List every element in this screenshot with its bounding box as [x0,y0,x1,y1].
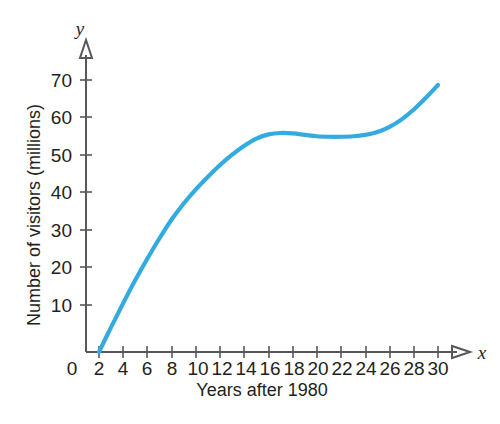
chart-figure: 70 60 50 40 30 20 10 [0,0,500,424]
x-tick-label-4: 4 [118,358,129,379]
y-tick-label-50: 50 [51,145,72,166]
data-curve-visitors [99,85,438,352]
x-tick-label-22: 22 [331,358,352,379]
y-axis-title: Number of visitors (millions) [24,104,44,326]
x-tick-label-6: 6 [142,358,153,379]
y-axis-tick-labels: 70 60 50 40 30 20 10 [51,70,72,316]
x-tick-label-10: 10 [187,358,208,379]
x-axis [86,346,470,358]
x-axis-variable-label: x [477,342,487,363]
x-tick-label-12: 12 [211,358,232,379]
x-tick-label-24: 24 [355,358,377,379]
x-tick-label-16: 16 [259,358,280,379]
y-tick-label-40: 40 [51,182,72,203]
y-tick-label-30: 30 [51,220,72,241]
x-tick-label-8: 8 [167,358,178,379]
y-axis-variable-label: y [74,18,85,39]
x-tick-label-20: 20 [307,358,328,379]
y-tick-label-70: 70 [51,70,72,91]
y-tick-label-10: 10 [51,295,72,316]
x-origin-label: 0 [67,358,78,379]
y-tick-label-60: 60 [51,107,72,128]
x-axis-tick-labels: 0 2 4 6 8 10 12 14 16 18 20 22 24 26 28 … [67,358,449,379]
x-tick-label-14: 14 [235,358,257,379]
x-tick-label-28: 28 [403,358,424,379]
x-tick-label-26: 26 [379,358,400,379]
x-tick-label-30: 30 [427,358,448,379]
y-tick-label-20: 20 [51,257,72,278]
x-tick-label-18: 18 [283,358,304,379]
chart-plot-area: 70 60 50 40 30 20 10 [0,0,500,424]
x-axis-title: Years after 1980 [196,380,327,400]
x-tick-label-2: 2 [94,358,105,379]
